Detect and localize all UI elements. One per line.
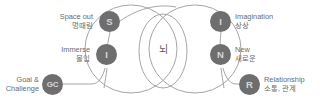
label-goal-challenge-line1: Goal & [6,75,39,84]
label-new: New 새로운 [235,45,256,63]
label-new-ko: 새로운 [235,54,256,63]
badge-imagination[interactable]: I [210,11,231,32]
badge-relationship[interactable]: R [239,74,260,95]
label-goal-challenge-line2: Challenge [6,84,39,93]
label-space-out-en: Space out [60,12,93,21]
connector-goal-challenge [63,68,105,84]
label-space-out-ko: 멍때림 [60,21,93,30]
label-goal-challenge: Goal & Challenge [6,75,39,93]
label-imagination-en: Imagination [235,12,273,21]
badge-immerse[interactable]: I [96,44,117,65]
label-immerse: Immerse 몰입 [61,45,90,63]
label-new-en: New [235,45,256,54]
label-relationship: Relationship 소통, 관계 [264,75,305,93]
label-space-out: Space out 멍때림 [60,12,93,30]
label-imagination: Imagination 상상 [235,12,273,30]
badge-new[interactable]: N [210,44,231,65]
badge-space-out[interactable]: S [99,11,120,32]
label-relationship-en: Relationship [264,75,305,84]
brain-venn-diagram: S I I N GC R Space out 멍때림 Imagination 상… [0,0,324,102]
label-immerse-en: Immerse [61,45,90,54]
center-label-brain: 뇌 [152,44,174,55]
label-immerse-ko: 몰입 [61,54,90,63]
badge-goal-challenge[interactable]: GC [42,74,63,95]
label-relationship-ko: 소통, 관계 [264,84,305,93]
label-imagination-ko: 상상 [235,21,273,30]
